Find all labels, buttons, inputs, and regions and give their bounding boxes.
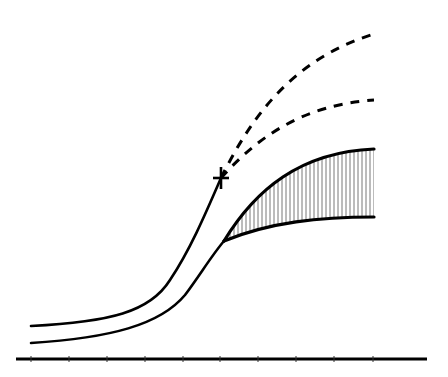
dashed-upper-projection: [221, 34, 374, 178]
hatched-band: [226, 140, 374, 245]
upper-solid-curve: [31, 178, 221, 326]
band-upper-edge: [224, 149, 374, 241]
growth-curves-diagram: [0, 0, 448, 377]
lower-solid-curve: [31, 241, 224, 343]
cross-marker-icon: [213, 167, 229, 189]
dashed-lower-projection: [221, 100, 374, 178]
band-lower-edge: [224, 217, 374, 241]
